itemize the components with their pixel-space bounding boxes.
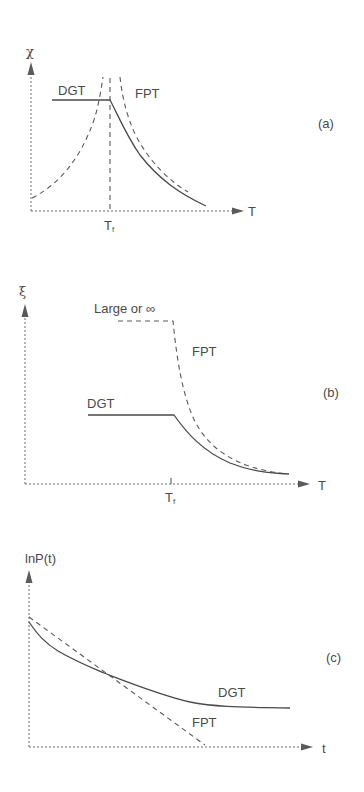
dgt-label: DGT	[218, 685, 246, 700]
x-axis-arrow-icon	[232, 208, 244, 215]
x-axis-label: T	[318, 478, 326, 493]
panel-c: lnP(t) t DGT FPT (c)	[25, 551, 341, 756]
fpt-label: FPT	[135, 86, 160, 101]
figure-canvas: χ T Tf DGT FPT (a) ξ T Tf Large or ∞ FPT…	[0, 0, 364, 792]
x-axis-label: T	[248, 204, 256, 219]
x-tick-label: Tf	[165, 490, 176, 506]
panel-b: ξ T Tf Large or ∞ FPT DGT (b)	[19, 284, 339, 506]
dgt-label: DGT	[87, 396, 115, 411]
panel-label: (b)	[323, 385, 339, 400]
fpt-label: FPT	[192, 715, 217, 730]
dgt-curve	[29, 622, 290, 708]
panel-label: (c)	[326, 650, 341, 665]
y-axis-label: ξ	[19, 284, 26, 299]
dgt-curve	[88, 415, 289, 474]
fpt-label: FPT	[192, 344, 217, 359]
x-tick-label: Tf	[104, 218, 115, 234]
y-axis-label: lnP(t)	[25, 551, 56, 566]
y-axis-label: χ	[26, 44, 34, 59]
x-axis-label: t	[322, 741, 326, 756]
large-or-infinity-annotation: Large or ∞	[94, 301, 155, 316]
panel-label: (a)	[318, 116, 334, 131]
x-axis-arrow-icon	[298, 481, 310, 488]
y-axis-arrow-icon	[22, 304, 29, 317]
y-axis-arrow-icon	[28, 62, 35, 75]
panel-a: χ T Tf DGT FPT (a)	[26, 44, 334, 234]
y-axis-arrow-icon	[26, 570, 33, 583]
dgt-curve	[52, 100, 206, 206]
dgt-label: DGT	[58, 83, 86, 98]
x-axis-arrow-icon	[301, 744, 313, 751]
fpt-curve	[29, 617, 205, 745]
